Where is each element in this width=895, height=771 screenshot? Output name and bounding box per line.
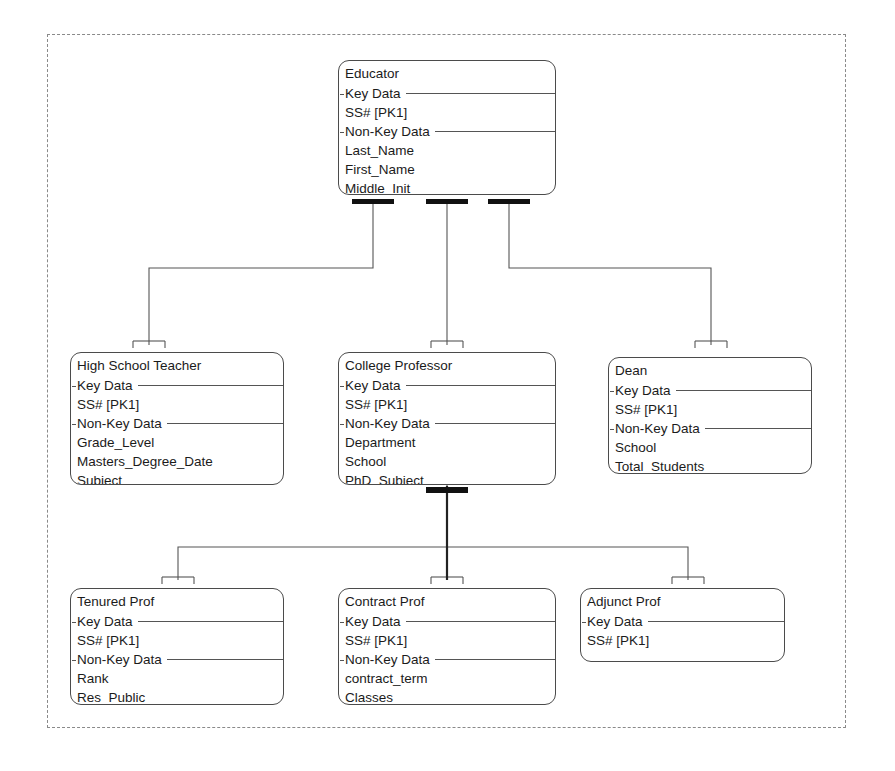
attribute-high-school-teacher-masters-degree-date: Masters_Degree_Date [71,452,283,471]
section-tick-icon [72,386,76,387]
section-tick-icon [340,386,344,387]
section-key-data-contract-prof: Key Data [339,612,555,631]
entity-high-school-teacher[interactable]: High School Teacher Key Data SS# [PK1] N… [70,352,284,485]
section-tick-icon [72,622,76,623]
attribute-educator-pk: SS# [PK1] [339,103,555,122]
attribute-adjunct-prof-pk: SS# [PK1] [581,631,784,650]
attribute-college-professor-school: School [339,452,555,471]
attribute-tenured-prof-rank: Rank [71,669,283,688]
attribute-contract-prof-contract-term: contract_term [339,669,555,688]
connector-college-professor-adjunct-prof [447,547,688,580]
entity-tenured-prof[interactable]: Tenured Prof Key Data SS# [PK1] Non-Key … [70,588,284,705]
section-rule [676,390,811,391]
section-key-data-high-school-teacher: Key Data [71,376,283,395]
entity-name-educator: Educator [339,61,555,84]
section-rule [435,423,555,424]
section-non-key-data-educator: Non-Key Data [339,122,555,141]
section-tick-icon [340,132,344,133]
entity-adjunct-prof[interactable]: Adjunct Prof Key Data SS# [PK1] [580,588,785,662]
attribute-tenured-prof-pk: SS# [PK1] [71,631,283,650]
section-tick-icon [340,94,344,95]
attribute-high-school-teacher-subject: Subject [71,471,283,485]
section-rule [138,385,283,386]
section-rule [167,659,283,660]
entity-college-professor[interactable]: College Professor Key Data SS# [PK1] Non… [338,352,556,485]
section-tick-icon [72,424,76,425]
section-rule [435,131,555,132]
section-tick-icon [610,429,614,430]
entity-name-adjunct-prof: Adjunct Prof [581,589,784,612]
section-non-key-data-contract-prof: Non-Key Data [339,650,555,669]
section-tick-icon [582,622,586,623]
section-tick-icon [610,391,614,392]
section-rule [406,621,555,622]
section-non-key-data-tenured-prof: Non-Key Data [71,650,283,669]
entity-dean[interactable]: Dean Key Data SS# [PK1] Non-Key Data Sch… [608,357,812,474]
entity-name-contract-prof: Contract Prof [339,589,555,612]
attribute-dean-school: School [609,438,811,457]
section-key-data-tenured-prof: Key Data [71,612,283,631]
category-bar-dean [488,199,530,204]
section-tick-icon [72,660,76,661]
entity-educator[interactable]: Educator Key Data SS# [PK1] Non-Key Data… [338,60,556,195]
entity-contract-prof[interactable]: Contract Prof Key Data SS# [PK1] Non-Key… [338,588,556,705]
attribute-college-professor-pk: SS# [PK1] [339,395,555,414]
connector-educator-high-school-teacher [149,203,373,345]
attribute-college-professor-department: Department [339,433,555,452]
section-non-key-data-high-school-teacher: Non-Key Data [71,414,283,433]
attribute-high-school-teacher-grade-level: Grade_Level [71,433,283,452]
section-key-data-dean: Key Data [609,381,811,400]
section-key-data-educator: Key Data [339,84,555,103]
section-rule [406,385,555,386]
section-rule [406,93,555,94]
category-bar-high-school-teacher [352,199,394,204]
attribute-tenured-prof-res-public: Res_Public [71,688,283,705]
attribute-educator-first-name: First_Name [339,160,555,179]
entity-name-college-professor: College Professor [339,353,555,376]
section-tick-icon [340,622,344,623]
section-rule [705,428,811,429]
section-key-data-college-professor: Key Data [339,376,555,395]
section-non-key-data-college-professor: Non-Key Data [339,414,555,433]
category-bar-college-professor [426,199,468,204]
attribute-educator-last-name: Last_Name [339,141,555,160]
section-rule [167,423,283,424]
connector-educator-dean [509,203,711,345]
section-non-key-data-dean: Non-Key Data [609,419,811,438]
attribute-educator-middle-init: Middle_Init [339,179,555,195]
attribute-contract-prof-classes: Classes [339,688,555,705]
attribute-college-professor-phd-subject: PhD_Subject [339,471,555,485]
attribute-dean-total-students: Total_Students [609,457,811,474]
diagram-canvas: Educator Key Data SS# [PK1] Non-Key Data… [0,0,895,771]
entity-name-tenured-prof: Tenured Prof [71,589,283,612]
entity-name-dean: Dean [609,358,811,381]
attribute-contract-prof-pk: SS# [PK1] [339,631,555,650]
section-rule [138,621,283,622]
attribute-high-school-teacher-pk: SS# [PK1] [71,395,283,414]
section-key-data-adjunct-prof: Key Data [581,612,784,631]
section-tick-icon [340,660,344,661]
entity-name-high-school-teacher: High School Teacher [71,353,283,376]
connector-college-professor-tenured-prof [178,547,447,580]
category-bar-college-professor-subtypes [426,487,468,493]
section-tick-icon [340,424,344,425]
section-rule [648,621,784,622]
attribute-dean-pk: SS# [PK1] [609,400,811,419]
section-rule [435,659,555,660]
